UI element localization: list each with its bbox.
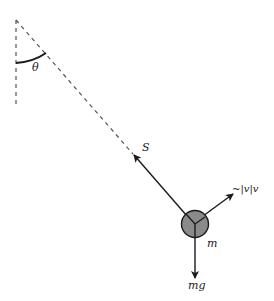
tension-label: S xyxy=(142,141,150,154)
weight-label: mg xyxy=(188,279,205,292)
pendulum-string-line xyxy=(16,20,133,154)
angle-label: θ xyxy=(32,61,39,74)
pendulum-diagram: θ S ~|v|v m mg xyxy=(0,0,274,301)
mass-label: m xyxy=(207,237,217,250)
drag-label: ~|v|v xyxy=(232,183,259,195)
angle-arc xyxy=(16,53,46,63)
drag-arrow xyxy=(203,194,233,216)
tension-arrow xyxy=(134,155,187,216)
